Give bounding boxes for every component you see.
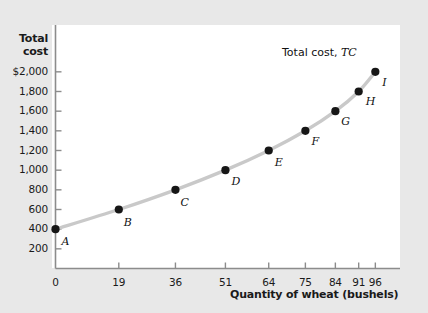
data-point-D bbox=[221, 166, 229, 174]
data-point-B bbox=[115, 205, 123, 213]
x-tick-label: 19 bbox=[112, 276, 125, 288]
x-tick-label: 51 bbox=[219, 276, 232, 288]
data-point-G bbox=[331, 107, 339, 115]
point-label-I: I bbox=[382, 76, 386, 89]
data-point-C bbox=[171, 186, 179, 194]
plot-canvas bbox=[0, 0, 428, 313]
point-label-A: A bbox=[62, 235, 70, 248]
point-label-H: H bbox=[366, 95, 376, 108]
series-annotation-text: Total cost, bbox=[282, 46, 341, 59]
x-tick-label: 64 bbox=[262, 276, 275, 288]
total-cost-curve-figure: Total cost Quantity of wheat (bushels) 2… bbox=[0, 0, 428, 313]
x-tick-label: 0 bbox=[52, 276, 58, 288]
y-tick-label: 1,400 bbox=[2, 124, 48, 136]
point-label-B: B bbox=[124, 216, 132, 229]
point-label-C: C bbox=[180, 196, 188, 209]
point-label-D: D bbox=[231, 175, 240, 188]
point-label-G: G bbox=[341, 115, 350, 128]
y-tick-label: $2,000 bbox=[2, 65, 48, 77]
data-point-I bbox=[371, 68, 379, 76]
y-tick-label: 1,000 bbox=[2, 163, 48, 175]
y-tick-label: 1,200 bbox=[2, 144, 48, 156]
x-tick-label: 75 bbox=[299, 276, 312, 288]
x-tick-label: 36 bbox=[169, 276, 182, 288]
x-tick-label: 91 bbox=[352, 276, 365, 288]
x-tick-label: 84 bbox=[329, 276, 342, 288]
y-tick-label: 200 bbox=[2, 242, 48, 254]
data-point-A bbox=[51, 225, 59, 233]
y-tick-label: 800 bbox=[2, 183, 48, 195]
y-tick-label: 1,600 bbox=[2, 104, 48, 116]
point-label-E: E bbox=[275, 156, 283, 169]
data-point-F bbox=[301, 127, 309, 135]
series-annotation-symbol: TC bbox=[341, 46, 357, 59]
series-annotation: Total cost, TC bbox=[282, 46, 357, 59]
total-cost-curve bbox=[56, 72, 376, 229]
data-point-E bbox=[265, 146, 273, 154]
y-tick-label: 1,800 bbox=[2, 85, 48, 97]
y-tick-label: 600 bbox=[2, 203, 48, 215]
y-tick-label: 400 bbox=[2, 222, 48, 234]
point-label-F: F bbox=[311, 135, 319, 148]
x-tick-label: 96 bbox=[369, 276, 382, 288]
data-point-H bbox=[355, 87, 363, 95]
